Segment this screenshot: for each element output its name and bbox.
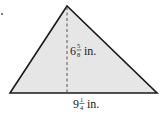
height-whole: 6 [70, 44, 76, 58]
height-label: 6 5 8 in. [70, 42, 96, 58]
triangle-diagram: 6 5 8 in. 9 1 4 in. [0, 0, 160, 119]
height-numerator: 5 [77, 42, 80, 49]
base-unit: in. [87, 97, 99, 111]
bullet-dot [1, 13, 3, 15]
base-numerator: 1 [80, 96, 83, 103]
height-unit: in. [84, 44, 96, 58]
height-denominator: 8 [77, 51, 80, 58]
base-whole: 9 [73, 97, 79, 111]
base-denominator: 4 [80, 104, 84, 111]
base-label: 9 1 4 in. [73, 96, 99, 112]
